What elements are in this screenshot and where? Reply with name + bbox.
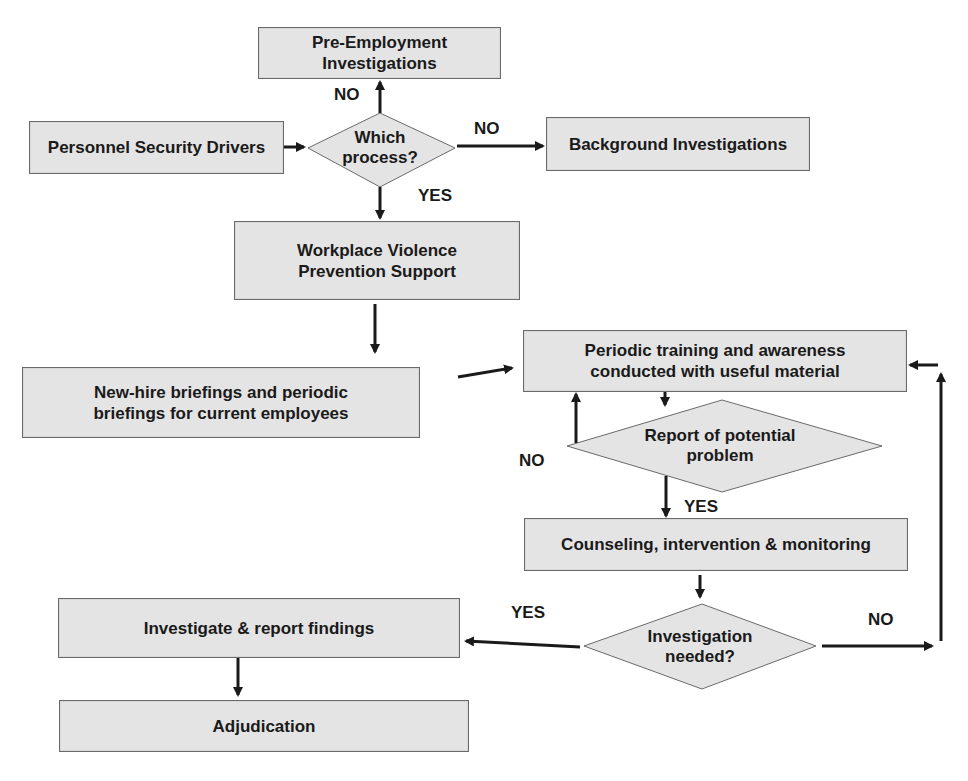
periodic-training-box: Periodic training and awareness conducte… — [523, 330, 907, 392]
adjudication-box: Adjudication — [59, 700, 469, 752]
label-report-to-counseling: YES — [684, 497, 718, 517]
pre-employment-investigations-box: Pre-Employment Investigations — [258, 27, 501, 79]
investigation-needed-text: Investigation needed? — [640, 624, 760, 670]
label-investigation-to-investigate: YES — [511, 603, 545, 623]
new-hire-briefings-box: New-hire briefings and periodic briefing… — [22, 367, 420, 438]
report-problem-text: Report of potential problem — [620, 423, 820, 469]
label-investigation-to-training: NO — [868, 610, 894, 630]
arrow-briefings-to-training — [458, 368, 512, 377]
label-report-to-training: NO — [519, 451, 545, 471]
label-which-to-background: NO — [474, 119, 500, 139]
which-process-text: Which process? — [330, 125, 430, 171]
arrow-investigation-to-investigate — [466, 641, 580, 647]
label-which-to-pre: NO — [334, 85, 360, 105]
counseling-box: Counseling, intervention & monitoring — [524, 518, 908, 571]
personnel-security-drivers-box: Personnel Security Drivers — [29, 121, 284, 174]
background-investigations-box: Background Investigations — [546, 117, 810, 171]
workplace-violence-prevention-box: Workplace Violence Prevention Support — [234, 221, 520, 300]
investigate-report-box: Investigate & report findings — [58, 598, 460, 658]
label-which-to-workplace: YES — [418, 186, 452, 206]
